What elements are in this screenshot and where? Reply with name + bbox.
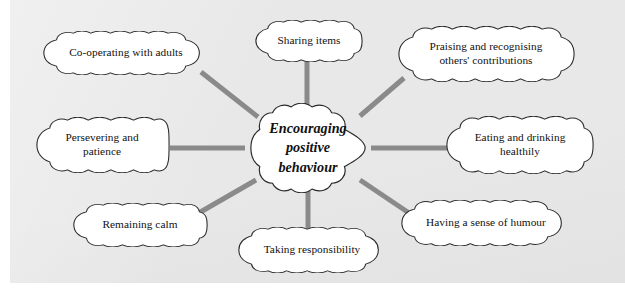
central-node-label: Encouraging positive behaviour <box>265 119 350 176</box>
branch-node-sharing[interactable]: Sharing items <box>250 20 368 62</box>
branch-label: Eating and drinking healthily <box>471 131 570 159</box>
central-node[interactable]: Encouraging positive behaviour <box>243 103 373 193</box>
branch-node-cooperating[interactable]: Co-operating with adults <box>38 31 214 75</box>
branch-label: Persevering and patience <box>61 131 142 159</box>
branch-node-taking[interactable]: Taking responsibility <box>233 227 391 273</box>
mind-map-figure: Co-operating with adults Sharing items P… <box>0 0 625 295</box>
branch-node-eating[interactable]: Eating and drinking healthily <box>440 116 600 174</box>
branch-node-remaining[interactable]: Remaining calm <box>68 203 212 247</box>
branch-label: Taking responsibility <box>260 243 365 257</box>
branch-label: Remaining calm <box>98 218 181 232</box>
branch-label: Praising and recognising others' contrib… <box>426 40 547 68</box>
branch-label: Co-operating with adults <box>65 46 187 60</box>
branch-node-persevering[interactable]: Persevering and patience <box>30 117 174 173</box>
branch-label: Having a sense of humour <box>422 216 550 230</box>
branch-node-praising[interactable]: Praising and recognising others' contrib… <box>392 26 580 82</box>
branch-node-humour[interactable]: Having a sense of humour <box>396 200 576 246</box>
branch-label: Sharing items <box>273 34 344 48</box>
